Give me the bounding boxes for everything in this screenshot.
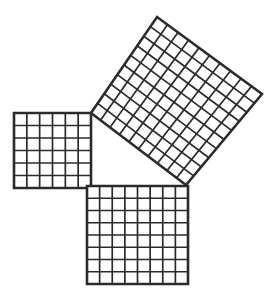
leg-b-square [87,186,188,284]
leg-a-square [14,113,91,188]
figure-canvas [0,0,269,294]
pythagorean-figure [0,0,269,294]
